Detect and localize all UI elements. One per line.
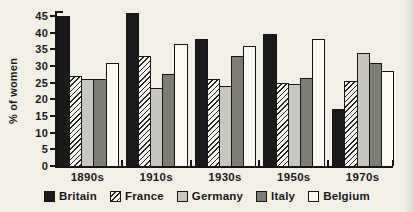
legend-label: Britain — [59, 190, 97, 202]
legend-item-britain: Britain — [44, 190, 97, 202]
y-tick-20: 20 — [35, 93, 55, 105]
y-tick-45: 45 — [35, 10, 55, 22]
y-axis: 051015202530354045 — [0, 16, 55, 166]
y-tick-10: 10 — [35, 127, 55, 139]
legend: BritainFranceGermanyItalyBelgium — [0, 190, 414, 202]
legend-label: France — [125, 190, 164, 202]
germany-swatch — [177, 191, 188, 202]
y-tick-label: 10 — [35, 127, 48, 139]
y-tick-label: 45 — [35, 10, 48, 22]
y-tick-40: 40 — [35, 27, 55, 39]
y-tick-label: 20 — [35, 93, 48, 105]
bar-belgium-1970s — [381, 71, 394, 166]
bar-belgium-1910s — [174, 44, 187, 166]
y-tick-label: 30 — [35, 60, 48, 72]
y-tick-label: 5 — [42, 143, 48, 155]
y-tick-30: 30 — [35, 60, 55, 72]
bar-belgium-1930s — [243, 46, 256, 166]
group-separator-tick — [187, 16, 195, 166]
bar-belgium-1890s — [106, 63, 119, 166]
bar-group-1910s: 1910s — [126, 16, 187, 166]
grouped-bar-chart-figure: % of women 051015202530354045 1890s1910s… — [0, 0, 414, 212]
group-separator-tick — [324, 16, 332, 166]
legend-item-italy: Italy — [256, 190, 295, 202]
legend-label: Germany — [192, 190, 243, 202]
legend-item-germany: Germany — [177, 190, 243, 202]
y-tick-label: 40 — [35, 27, 48, 39]
bar-group-1890s: 1890s — [57, 16, 118, 166]
scan-edge-shadow — [404, 0, 414, 212]
legend-item-france: France — [110, 190, 164, 202]
y-tick-label: 25 — [35, 77, 48, 89]
y-tick-5: 5 — [42, 143, 55, 155]
y-tick-label: 35 — [35, 43, 48, 55]
legend-label: Italy — [271, 190, 295, 202]
britain-swatch — [44, 191, 55, 202]
group-separator-tick — [255, 16, 263, 166]
italy-swatch — [256, 191, 267, 202]
y-tick-15: 15 — [35, 110, 55, 122]
bar-group-1950s: 1950s — [263, 16, 324, 166]
bar-group-1930s: 1930s — [195, 16, 256, 166]
bar-group-1970s: 1970s — [332, 16, 393, 166]
group-separator-tick — [118, 16, 126, 166]
belgium-swatch — [308, 191, 319, 202]
france-swatch — [110, 191, 121, 202]
plot-area: 1890s1910s1930s1950s1970s — [55, 16, 393, 168]
legend-item-belgium: Belgium — [308, 190, 370, 202]
y-tick-label: 15 — [35, 110, 48, 122]
legend-label: Belgium — [323, 190, 370, 202]
bar-belgium-1950s — [312, 39, 325, 166]
x-tick-label: 1970s — [322, 171, 403, 183]
y-tick-35: 35 — [35, 43, 55, 55]
y-tick-25: 25 — [35, 77, 55, 89]
